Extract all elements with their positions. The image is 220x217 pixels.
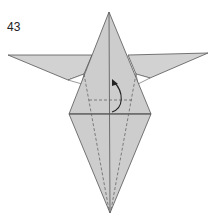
origami-diagram bbox=[0, 0, 220, 217]
right-wing bbox=[128, 53, 208, 78]
